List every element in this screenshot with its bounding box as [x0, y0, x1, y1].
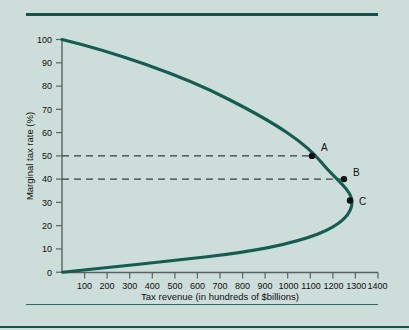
point-label-c: C [359, 196, 366, 207]
x-tick-label-800: 800 [235, 281, 250, 291]
y-tick-label-80: 80 [42, 81, 52, 91]
y-tick-label-30: 30 [42, 198, 52, 208]
x-tick-label-700: 700 [212, 281, 227, 291]
laffer-curve-chart: 0 10 20 30 40 50 60 70 80 90 100 [0, 0, 409, 330]
x-tick-label-500: 500 [167, 281, 182, 291]
figure-container: 0 10 20 30 40 50 60 70 80 90 100 [0, 0, 409, 330]
x-tick-label-1100: 1100 [301, 281, 320, 291]
y-tick-label-100: 100 [37, 35, 52, 45]
y-tick-label-20: 20 [42, 221, 52, 231]
x-axis-ticks [85, 273, 378, 279]
point-label-b: B [353, 167, 360, 178]
x-tick-label-200: 200 [100, 281, 115, 291]
x-axis-title: Tax revenue (in hundreds of $billions) [141, 291, 299, 302]
point-marker-c [347, 197, 353, 203]
y-axis-title: Marginal tax rate (%) [24, 112, 35, 200]
x-tick-label-100: 100 [77, 281, 92, 291]
x-tick-label-1400: 1400 [367, 281, 387, 291]
y-tick-label-60: 60 [42, 128, 52, 138]
y-tick-label-40: 40 [42, 174, 52, 184]
x-tick-label-900: 900 [258, 281, 273, 291]
y-tick-label-10: 10 [42, 244, 52, 254]
x-tick-label-300: 300 [122, 281, 137, 291]
point-marker-a [309, 153, 315, 159]
plot-area: 0 10 20 30 40 50 60 70 80 90 100 [0, 0, 409, 330]
x-tick-label-600: 600 [190, 281, 205, 291]
point-label-a: A [321, 142, 328, 153]
y-tick-label-70: 70 [42, 105, 52, 115]
y-tick-label-50: 50 [42, 151, 52, 161]
y-tick-label-90: 90 [42, 58, 52, 68]
point-marker-b [341, 176, 347, 182]
x-tick-label-1000: 1000 [278, 281, 298, 291]
x-tick-label-1200: 1200 [324, 281, 344, 291]
x-tick-label-400: 400 [145, 281, 160, 291]
y-tick-label-0: 0 [47, 268, 52, 278]
y-axis-ticks [56, 40, 62, 273]
x-tick-label-1300: 1300 [346, 281, 366, 291]
